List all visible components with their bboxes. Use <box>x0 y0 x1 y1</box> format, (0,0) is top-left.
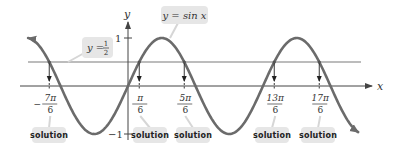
svg-text:solution: solution <box>253 131 291 140</box>
label-sin-x-text: y = sin x <box>162 10 207 21</box>
solution-tick-label: 7π6− <box>33 93 57 115</box>
svg-text:solution: solution <box>30 131 68 140</box>
label-y-half-lhs: y = <box>86 42 104 53</box>
leader-lines <box>49 116 320 128</box>
solution-badge: solution <box>174 127 212 143</box>
svg-text:7π: 7π <box>44 93 57 103</box>
svg-text:−: − <box>33 99 41 109</box>
svg-text:6: 6 <box>137 105 143 115</box>
label-sin-x: y = sin x <box>161 6 208 38</box>
x-axis-label: x <box>377 80 384 93</box>
sine-graph: x y 1 −1 7π6−solutionπ6solution5π6soluti… <box>0 0 400 153</box>
label-y-half-num: 1 <box>104 40 108 48</box>
svg-text:13π: 13π <box>267 93 285 103</box>
solution-badge: solution <box>30 127 68 143</box>
y-tick-label-1: 1 <box>115 33 121 44</box>
label-y-half: y = 1 2 <box>68 37 113 62</box>
svg-text:6: 6 <box>47 105 53 115</box>
intersection-point <box>183 60 186 63</box>
solution-tick-label: 17π6 <box>312 93 330 115</box>
intersection-point <box>48 60 51 63</box>
solution-badge: solution <box>131 127 169 143</box>
label-y-half-den: 2 <box>104 49 108 57</box>
svg-text:solution: solution <box>174 131 212 140</box>
y-axis-label: y <box>123 8 131 21</box>
svg-text:5π: 5π <box>179 93 192 103</box>
svg-text:6: 6 <box>182 105 188 115</box>
solution-tick-label: 5π6 <box>177 93 192 115</box>
solution-badge: solution <box>299 127 337 143</box>
svg-text:π: π <box>136 93 144 103</box>
intersection-point <box>273 60 276 63</box>
y-tick-label-neg1: −1 <box>108 129 123 140</box>
svg-text:6: 6 <box>272 105 278 115</box>
solution-tick-label: 13π6 <box>267 93 285 115</box>
intersection-point <box>318 60 321 63</box>
solution-tick-label: π6 <box>132 93 147 115</box>
svg-text:17π: 17π <box>312 93 330 103</box>
svg-text:solution: solution <box>131 131 169 140</box>
solutions: 7π6−solutionπ6solution5π6solution13π6sol… <box>30 60 337 143</box>
solution-badge: solution <box>253 127 291 143</box>
svg-text:solution: solution <box>299 131 337 140</box>
svg-text:6: 6 <box>317 105 323 115</box>
intersection-point <box>138 60 141 63</box>
